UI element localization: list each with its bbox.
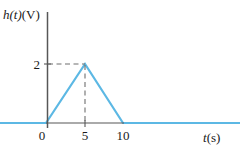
x-tick-label-0: 0 <box>35 129 49 142</box>
y-axis-label: h(t)(V) <box>3 8 40 21</box>
x-axis-label: t(s) <box>203 131 220 144</box>
y-axis-label-symbol: h(t) <box>3 7 22 22</box>
plot-canvas <box>0 0 242 148</box>
x-tick-label-5: 5 <box>78 129 92 142</box>
signal-trace-h-of-t <box>0 64 240 123</box>
y-tick-label-2: 2 <box>28 58 40 71</box>
waveform-figure: h(t)(V) t(s) 2 0 5 10 <box>0 0 242 148</box>
x-axis-label-unit: (s) <box>207 130 221 145</box>
x-tick-label-10: 10 <box>112 129 134 142</box>
y-axis-label-unit: (V) <box>22 7 40 22</box>
